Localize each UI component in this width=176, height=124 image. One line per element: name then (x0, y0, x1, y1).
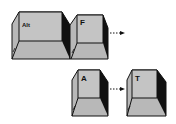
arrow-icon (110, 31, 125, 35)
keystroke-diagram: Alt F A T (0, 0, 176, 124)
key-label-alt: Alt (22, 22, 30, 28)
key-label-f: F (80, 18, 85, 27)
key-f: F (70, 15, 108, 59)
key-alt: Alt (12, 12, 70, 59)
arrow-icon (110, 87, 125, 91)
key-label-a: A (81, 74, 87, 83)
key-t: T (127, 70, 166, 116)
key-a: A (72, 70, 108, 116)
key-label-t: T (135, 74, 140, 83)
